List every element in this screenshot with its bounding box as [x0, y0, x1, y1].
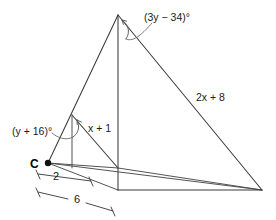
leader-line-top-angle	[126, 23, 152, 40]
angle-label-top: (3y − 34)°	[144, 11, 190, 23]
side-label-large: 2x + 8	[196, 91, 225, 103]
dimension-tick-large-right	[111, 207, 115, 216]
point-label-c: C	[30, 157, 39, 171]
dimension-line-large-b	[86, 203, 113, 211]
dimension-tick-small-right	[89, 177, 93, 186]
edge-base-c-to-right	[48, 163, 262, 190]
dimension-line-large-a	[38, 192, 68, 199]
vertex-dot-c	[45, 160, 51, 166]
dimension-label-large: 6	[74, 193, 80, 205]
edge-apex-large-to-base-right	[118, 15, 262, 190]
dimension-label-small: 2	[53, 170, 59, 182]
side-label-small: x + 1	[88, 122, 111, 134]
leader-line-left-angle	[52, 133, 73, 139]
dimension-line-small	[38, 174, 91, 181]
edge-c-to-apex-large	[48, 15, 118, 163]
geometry-figure: (3y − 34)° (y + 16)° x + 1 2x + 8 C 2 6	[0, 0, 276, 220]
angle-arc-left	[73, 120, 79, 137]
angle-label-left: (y + 16)°	[12, 125, 52, 137]
geometry-canvas: (3y − 34)° (y + 16)° x + 1 2x + 8 C 2 6	[0, 0, 276, 220]
edge-base-mid-to-right	[118, 168, 262, 190]
